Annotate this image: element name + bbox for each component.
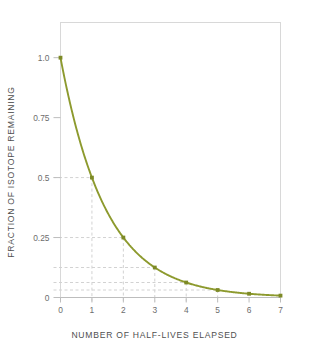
x-axis-tick-label: 7: [278, 305, 283, 315]
data-point-marker[interactable]: [59, 56, 63, 60]
y-axis-tick-label: 0.25: [33, 233, 50, 243]
x-axis-tick-label: 0: [58, 305, 63, 315]
x-axis-tick-label: 3: [152, 305, 157, 315]
y-axis-title: FRACTION OF ISOTOPE REMAINING: [0, 22, 22, 322]
y-axis-tick-label: 0.5: [38, 173, 50, 183]
x-axis-title: NUMBER OF HALF-LIVES ELAPSED: [0, 330, 309, 340]
decay-chart-figure: 00.250.50.751.001234567 FRACTION OF ISOT…: [0, 0, 309, 354]
data-point-marker[interactable]: [279, 294, 283, 298]
data-point-marker[interactable]: [184, 281, 188, 285]
data-point-marker[interactable]: [216, 288, 220, 292]
plot-canvas: 00.250.50.751.001234567: [0, 0, 309, 354]
x-axis-tick-label: 1: [90, 305, 95, 315]
data-point-marker[interactable]: [247, 292, 251, 296]
y-axis-tick-label: 0: [45, 293, 50, 303]
data-point-marker[interactable]: [90, 176, 94, 180]
x-axis-tick-label: 6: [247, 305, 252, 315]
x-axis-tick-label: 2: [121, 305, 126, 315]
data-point-marker[interactable]: [121, 236, 125, 240]
y-axis-tick-label: 1.0: [38, 53, 50, 63]
plot-frame: [61, 23, 281, 298]
y-axis-tick-label: 0.75: [33, 113, 50, 123]
data-point-marker[interactable]: [153, 266, 157, 270]
x-axis-tick-label: 4: [184, 305, 189, 315]
x-axis-tick-label: 5: [215, 305, 220, 315]
